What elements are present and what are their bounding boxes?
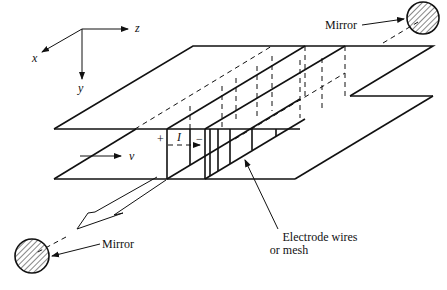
x-axis-label: x xyxy=(31,51,38,65)
minus-sign: − xyxy=(196,132,203,146)
mirror-bottom-icon xyxy=(15,239,49,273)
plus-sign: + xyxy=(157,132,164,146)
mirror-top-icon xyxy=(407,2,439,34)
bottom-plate xyxy=(54,73,433,179)
current-label: I xyxy=(176,130,182,144)
top-plate xyxy=(54,46,433,129)
mirror-top-pointer xyxy=(362,19,404,25)
x-axis-arrow xyxy=(42,29,82,52)
electrode-label-line1: Electrode wires xyxy=(283,230,358,244)
electrode-label-line2: or mesh xyxy=(270,243,308,257)
mirror-bottom-label: Mirror xyxy=(102,237,134,251)
output-beam-arrow xyxy=(77,177,166,229)
coordinate-axes: z x y xyxy=(31,21,140,95)
current-indicator: + I − xyxy=(157,130,203,146)
velocity-indicator: v xyxy=(80,149,135,163)
electrode-pointer xyxy=(245,160,278,229)
z-axis-label: z xyxy=(134,21,140,35)
y-axis-label: y xyxy=(77,81,84,95)
mirror-bottom-pointer xyxy=(52,244,100,256)
velocity-label: v xyxy=(129,149,135,163)
mirror-top-label: Mirror xyxy=(325,18,357,32)
diagram: z x y xyxy=(0,0,447,290)
